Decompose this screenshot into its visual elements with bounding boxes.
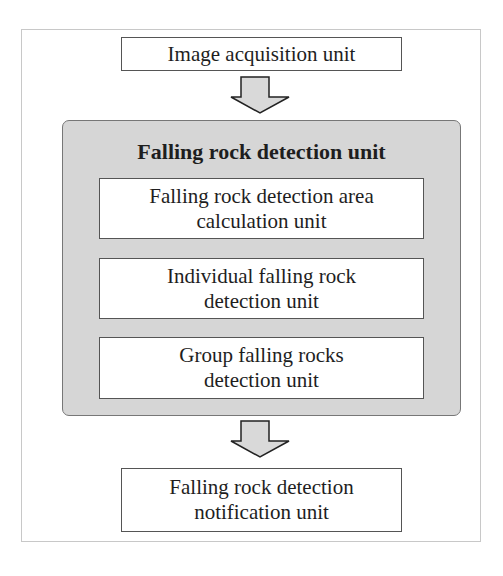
image-acquisition-unit-box: Image acquisition unit <box>121 37 402 71</box>
notification-unit-box: Falling rock detection notification unit <box>121 468 402 532</box>
box-line: Falling rock detection <box>169 475 353 500</box>
group-title: Falling rock detection unit <box>63 139 460 165</box>
box-line: Falling rock detection area <box>149 184 374 209</box>
box-line: calculation unit <box>149 209 374 234</box>
detection-area-calculation-unit-box: Falling rock detection area calculation … <box>99 178 424 239</box>
box-line: detection unit <box>167 289 356 314</box>
group-rocks-detection-unit-box: Group falling rocks detection unit <box>99 337 424 399</box>
box-line: detection unit <box>179 368 343 393</box>
down-arrow-icon <box>229 76 291 114</box>
down-arrow-icon <box>229 420 291 458</box>
image-acquisition-unit-label: Image acquisition unit <box>168 42 356 67</box>
box-line: notification unit <box>169 500 353 525</box>
individual-rock-detection-unit-box: Individual falling rock detection unit <box>99 258 424 319</box>
box-line: Group falling rocks <box>179 343 343 368</box>
box-line: Individual falling rock <box>167 264 356 289</box>
